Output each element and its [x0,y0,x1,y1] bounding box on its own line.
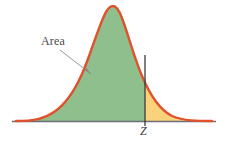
normal-distribution-figure: Area Z [0,0,227,147]
area-region-left [16,6,212,121]
z-axis-label: Z [140,124,147,139]
area-label: Area [41,34,65,49]
distribution-chart-svg [0,0,227,147]
